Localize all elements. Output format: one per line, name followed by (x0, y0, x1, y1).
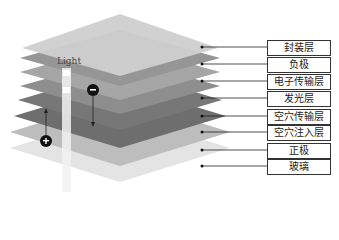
label-encapsulation: 封装层 (267, 40, 331, 56)
light-label: Light (57, 56, 81, 66)
light-window-icon (63, 87, 70, 93)
label-eml: 发光层 (267, 91, 331, 107)
label-cathode: 负极 (267, 57, 331, 73)
label-anode: 正极 (267, 143, 331, 159)
label-htl: 空穴传输层 (267, 109, 331, 125)
label-glass: 玻璃 (267, 159, 331, 175)
label-etl: 电子传输层 (267, 74, 331, 90)
label-hil: 空穴注入层 (267, 125, 331, 141)
light-beam (62, 68, 71, 192)
light-window-icon (63, 70, 70, 76)
